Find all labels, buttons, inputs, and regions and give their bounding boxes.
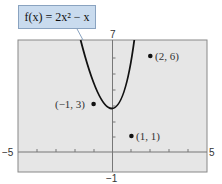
label-1-1: (1, 1) bbox=[136, 130, 160, 143]
point-1-1 bbox=[129, 134, 134, 139]
point-2-6 bbox=[148, 54, 153, 59]
xmin-label: −5 bbox=[2, 147, 14, 158]
label-neg1-3: (−1, 3) bbox=[55, 98, 85, 111]
xmax-label: 5 bbox=[209, 147, 215, 158]
ymin-label: −1 bbox=[106, 173, 118, 184]
function-label: f(x) = 2x² − x bbox=[18, 5, 96, 29]
label-2-6: (2, 6) bbox=[155, 50, 179, 63]
ymax-label: 7 bbox=[110, 29, 116, 40]
point-neg1-3 bbox=[91, 102, 96, 107]
